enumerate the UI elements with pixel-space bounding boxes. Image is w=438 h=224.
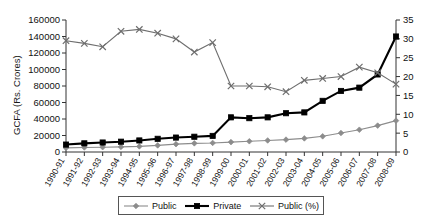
data-point-marker	[100, 140, 105, 145]
series-line	[66, 29, 396, 91]
data-point-marker	[210, 133, 215, 138]
legend-marker-diamond-icon	[123, 200, 149, 212]
data-point-marker	[338, 130, 344, 136]
y-axis-left-tick-label: 120000	[28, 47, 60, 58]
data-point-marker	[210, 140, 216, 146]
y-axis-left-tick-label: 40000	[34, 113, 60, 124]
series-public	[63, 26, 399, 95]
data-point-marker	[283, 137, 289, 143]
chart-plot-area: 0200004000060000800001000001200001400001…	[0, 0, 438, 224]
data-point-marker	[356, 64, 362, 70]
data-point-marker	[137, 138, 142, 143]
data-point-marker	[320, 134, 326, 140]
data-point-marker	[118, 139, 123, 144]
data-point-marker	[247, 116, 252, 121]
data-point-marker	[192, 141, 198, 147]
data-point-marker	[320, 98, 325, 103]
data-point-marker	[375, 123, 381, 129]
data-point-marker	[192, 134, 197, 139]
data-point-marker	[357, 127, 363, 133]
data-point-marker	[302, 110, 307, 115]
y-axis-right-tick-label: 0	[403, 146, 408, 157]
data-point-marker	[173, 141, 179, 147]
y-axis-left-tick-label: 60000	[34, 97, 60, 108]
y-axis-right-tick-label: 30	[403, 33, 414, 44]
data-point-marker	[302, 136, 308, 142]
data-point-marker	[209, 39, 215, 45]
y-axis-left-tick-label: 140000	[28, 31, 60, 42]
data-point-marker	[173, 135, 178, 140]
legend-item-public[interactable]: Public	[123, 200, 177, 212]
legend-item-private[interactable]: Private	[184, 200, 241, 212]
legend-marker-square-icon	[184, 200, 210, 212]
data-point-marker	[338, 88, 343, 93]
y-axis-right-tick-label: 15	[403, 90, 414, 101]
y-axis-right-tick-label: 5	[403, 128, 408, 139]
data-point-marker	[265, 115, 270, 120]
data-point-marker	[133, 203, 139, 209]
legend-label: Private	[213, 201, 241, 211]
y-axis-right-tick-label: 35	[403, 14, 414, 25]
data-point-marker	[393, 34, 398, 39]
y-axis-right-tick-label: 20	[403, 71, 414, 82]
chart-container: 0200004000060000800001000001200001400001…	[0, 0, 438, 224]
data-point-marker	[228, 115, 233, 120]
y-axis-left-tick-label: 80000	[34, 80, 60, 91]
legend-item-public[interactable]: Public (%)	[249, 200, 319, 212]
data-point-marker	[265, 138, 271, 144]
y-axis-left-tick-label: 160000	[28, 14, 60, 25]
data-point-marker	[195, 203, 200, 208]
chart-legend: PublicPrivatePublic (%)	[118, 196, 324, 215]
y-axis-left-tick-label: 20000	[34, 130, 60, 141]
data-point-marker	[393, 118, 399, 124]
data-point-marker	[137, 144, 143, 150]
legend-marker-x-icon	[249, 200, 275, 212]
series-line	[66, 37, 396, 145]
legend-label: Public	[152, 201, 177, 211]
series-private	[63, 34, 398, 147]
data-point-marker	[247, 138, 253, 144]
y-axis-right-tick-label: 10	[403, 109, 414, 120]
data-point-marker	[155, 136, 160, 141]
y-axis-right-tick-label: 25	[403, 52, 414, 63]
legend-label: Public (%)	[278, 201, 319, 211]
y-axis-left-tick-label: 100000	[28, 64, 60, 75]
series-public	[63, 118, 399, 151]
data-point-marker	[357, 85, 362, 90]
data-point-marker	[283, 111, 288, 116]
data-point-marker	[173, 36, 179, 42]
data-point-marker	[118, 144, 124, 150]
data-point-marker	[191, 49, 197, 55]
data-point-marker	[63, 142, 68, 147]
data-point-marker	[228, 139, 234, 145]
data-point-marker	[155, 143, 161, 149]
data-point-marker	[82, 141, 87, 146]
data-point-marker	[283, 88, 289, 94]
y-axis-left-title: GCFA (Rs. Crores)	[11, 55, 22, 135]
